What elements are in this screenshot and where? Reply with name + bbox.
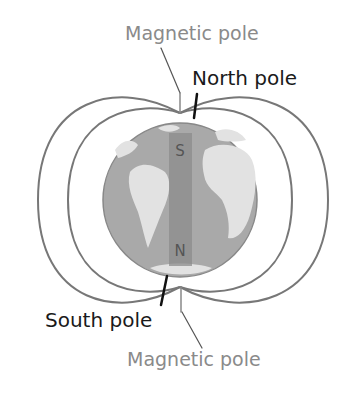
pointer-magnetic-pole-bottom: [182, 312, 202, 348]
label-north-pole: North pole: [192, 68, 297, 88]
magnet-letter-s: S: [175, 142, 185, 160]
pointer-north-pole: [194, 94, 197, 118]
magnetic-field-diagram: S N: [0, 0, 349, 396]
magnet-letter-n: N: [174, 242, 185, 260]
label-south-pole: South pole: [45, 310, 152, 330]
continent-europe: [215, 129, 246, 141]
pointer-magnetic-pole-top: [161, 48, 180, 93]
label-magnetic-pole-top: Magnetic pole: [125, 24, 259, 43]
label-magnetic-pole-bottom: Magnetic pole: [127, 350, 261, 369]
